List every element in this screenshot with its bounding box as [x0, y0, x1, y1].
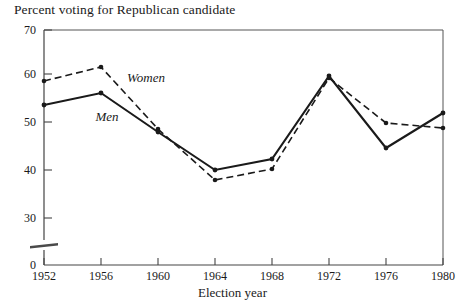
- y-tick-label-50: 50: [24, 115, 36, 130]
- series-label-men: Men: [95, 109, 118, 125]
- axis-break-icon: [30, 243, 58, 249]
- y-tick-label-30: 30: [24, 211, 36, 226]
- x-tick-label-1964: 1964: [203, 269, 227, 284]
- series-label-women: Women: [127, 70, 165, 86]
- x-axis-ticks: [44, 258, 443, 265]
- x-tick-label-1952: 1952: [32, 269, 56, 284]
- y-tick-label-70: 70: [24, 23, 36, 38]
- x-tick-label-1976: 1976: [374, 269, 398, 284]
- chart-figure: Percent voting for Republican candidate: [0, 0, 465, 308]
- x-axis-title: Election year: [0, 285, 465, 301]
- x-tick-label-1956: 1956: [89, 269, 113, 284]
- x-tick-label-1980: 1980: [431, 269, 455, 284]
- y-tick-label-60: 60: [24, 67, 36, 82]
- x-tick-label-1968: 1968: [260, 269, 284, 284]
- chart-plot-area: [0, 0, 465, 308]
- x-tick-label-1960: 1960: [146, 269, 170, 284]
- y-axis-ticks: [44, 30, 52, 218]
- x-tick-label-1972: 1972: [317, 269, 341, 284]
- y-tick-label-40: 40: [24, 163, 36, 178]
